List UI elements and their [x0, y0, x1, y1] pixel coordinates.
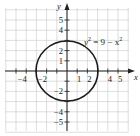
y-tick-label: 2 [59, 46, 63, 56]
y-tick-label: −5 [54, 117, 63, 127]
y-tick-label: −2 [54, 86, 63, 96]
x-tick-label: 5 [118, 74, 122, 84]
y-tick-label: −4 [54, 107, 64, 117]
x-tick-label: −4 [18, 74, 28, 84]
equation-label: y2 = 9 − x2 [83, 36, 122, 47]
y-axis-arrow-icon [65, 3, 70, 10]
x-tick-labels: −4−21245 [18, 74, 122, 84]
y-tick-label: 1 [59, 56, 63, 66]
x-tick-label: 2 [87, 74, 91, 84]
y-axis-label: y [56, 1, 61, 11]
x-tick-label: −2 [38, 74, 47, 84]
x-tick-label: 1 [77, 74, 81, 84]
x-axis-label: x [133, 72, 138, 82]
graph: x y −4−21245 5421−2−4−5 y2 = 9 − x2 [0, 0, 140, 136]
x-tick-label: 4 [108, 74, 113, 84]
y-tick-label: 5 [59, 15, 63, 25]
